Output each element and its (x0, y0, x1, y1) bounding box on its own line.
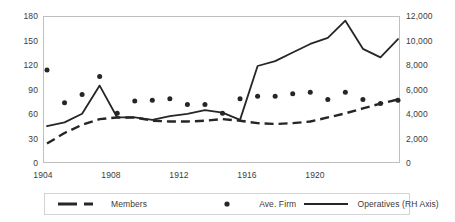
data-point (62, 100, 67, 105)
data-point (45, 68, 50, 73)
y-axis-left-tick: 0 (4, 158, 38, 168)
legend-label-members: Members (111, 199, 147, 209)
data-point (378, 101, 383, 106)
legend-label-ave-firm: Ave. Firm (259, 199, 296, 209)
y-axis-right-tick: 8,000 (406, 60, 428, 70)
x-axis-tick: 1920 (295, 170, 335, 180)
data-point (220, 111, 225, 116)
x-axis-tick: 1904 (23, 170, 63, 180)
y-axis-left-tick: 90 (4, 85, 38, 95)
data-point (238, 96, 243, 101)
y-axis-right-tick: 10,000 (406, 36, 433, 46)
chart-container: 180 150 120 90 60 30 0 12,000 10,000 8,0… (0, 0, 455, 222)
data-point (80, 92, 85, 97)
legend-label-operatives: Operatives (RH Axis) (357, 199, 438, 209)
data-point (185, 102, 190, 107)
y-axis-left-tick: 180 (4, 11, 38, 21)
y-axis-right-tick: 2,000 (406, 134, 428, 144)
y-axis-left-tick: 30 (4, 134, 38, 144)
x-axis-tick: 1912 (159, 170, 199, 180)
y-axis-left-tick: 120 (4, 60, 38, 70)
data-point (343, 90, 348, 95)
data-point (360, 97, 365, 102)
data-point (396, 98, 401, 103)
data-point (150, 98, 155, 103)
data-point (308, 90, 313, 95)
legend-item-operatives[interactable]: Operatives (RH Axis) (303, 194, 409, 214)
y-axis-left-tick: 150 (4, 36, 38, 46)
legend-item-members[interactable]: Members (45, 194, 205, 214)
data-point (273, 94, 278, 99)
data-point (115, 111, 120, 116)
legend-item-ave-firm[interactable]: Ave. Firm (205, 194, 303, 214)
series-members-line (47, 99, 398, 143)
data-point (132, 99, 137, 104)
y-axis-right-tick: 12,000 (406, 11, 433, 21)
plot-svg (44, 17, 401, 164)
data-point (167, 96, 172, 101)
dot-swatch-icon (205, 199, 253, 209)
plot-area (43, 16, 400, 163)
data-point (255, 94, 260, 99)
chart-legend: Members Ave. Firm Operatives (RH Axis) (44, 193, 410, 215)
y-axis-right-tick: 4,000 (406, 109, 428, 119)
series-ave-firm-dots (45, 68, 401, 116)
solid-line-swatch-icon (303, 199, 351, 209)
data-point (202, 102, 207, 107)
data-point (325, 97, 330, 102)
y-axis-right-tick: 6,000 (406, 85, 428, 95)
x-axis-tick: 1916 (227, 170, 267, 180)
data-point (97, 74, 102, 79)
series-operatives-line (47, 21, 398, 126)
dashed-line-swatch-icon (57, 199, 105, 209)
data-point (290, 91, 295, 96)
y-axis-right-tick: 0 (406, 158, 411, 168)
x-axis-tick: 1908 (91, 170, 131, 180)
y-axis-left-tick: 60 (4, 109, 38, 119)
